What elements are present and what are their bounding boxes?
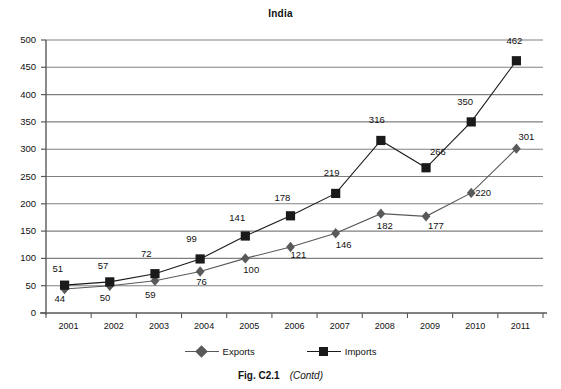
chart-legend: Exports Imports: [0, 345, 561, 357]
data-point-label: 121: [291, 249, 307, 260]
data-point-label: 99: [186, 233, 197, 244]
y-axis-tick-label: 500: [6, 34, 36, 45]
data-point-label: 301: [518, 131, 534, 142]
x-axis-tick-label: 2007: [319, 321, 361, 331]
legend-label-exports: Exports: [223, 346, 255, 357]
x-axis-tick-label: 2005: [228, 321, 270, 331]
figure-number: Fig. C2.1: [238, 370, 280, 381]
data-point-label: 316: [369, 114, 385, 125]
y-axis-tick-label: 50: [6, 280, 36, 291]
data-point-label: 100: [243, 264, 259, 275]
y-axis-tick-label: 350: [6, 116, 36, 127]
data-point-label: 462: [506, 35, 522, 46]
x-axis-tick-label: 2008: [364, 321, 406, 331]
figure-container: India 0501001502002503003504004505002001…: [0, 0, 561, 389]
y-axis-tick-label: 450: [6, 61, 36, 72]
y-axis-tick-label: 250: [6, 171, 36, 182]
y-axis-tick-label: 0: [6, 307, 36, 318]
x-axis-tick-label: 2003: [138, 321, 180, 331]
x-axis-tick-label: 2011: [499, 321, 541, 331]
figure-contd-note: (Contd): [290, 370, 323, 381]
data-point-label: 178: [275, 192, 291, 203]
data-point-label: 59: [145, 289, 156, 300]
diamond-marker-icon: [185, 345, 219, 357]
figure-caption: Fig. C2.1(Contd): [0, 370, 561, 381]
x-axis-tick-label: 2004: [183, 321, 225, 331]
y-axis-tick-label: 400: [6, 89, 36, 100]
data-point-label: 266: [430, 146, 446, 157]
x-axis-tick-label: 2006: [274, 321, 316, 331]
x-axis-tick-label: 2010: [454, 321, 496, 331]
data-point-label: 182: [377, 220, 393, 231]
data-point-label: 44: [55, 293, 66, 304]
y-axis-tick-label: 300: [6, 143, 36, 154]
y-axis-tick-label: 100: [6, 252, 36, 263]
legend-item-imports[interactable]: Imports: [307, 345, 377, 357]
legend-item-exports[interactable]: Exports: [185, 345, 255, 357]
data-point-label: 76: [196, 276, 207, 287]
legend-label-imports: Imports: [345, 346, 377, 357]
data-point-label: 141: [229, 212, 245, 223]
x-axis-tick-label: 2001: [48, 321, 90, 331]
y-axis-tick-label: 200: [6, 198, 36, 209]
data-point-label: 57: [98, 260, 109, 271]
data-point-label: 220: [475, 187, 491, 198]
x-axis-tick-label: 2009: [409, 321, 451, 331]
data-point-label: 50: [100, 292, 111, 303]
data-point-label: 219: [324, 167, 340, 178]
x-axis-tick-label: 2002: [93, 321, 135, 331]
square-marker-icon: [307, 345, 341, 357]
data-point-label: 146: [336, 239, 352, 250]
y-axis-tick-label: 150: [6, 225, 36, 236]
data-point-label: 350: [457, 96, 473, 107]
data-point-label: 177: [428, 220, 444, 231]
data-point-label: 51: [53, 263, 64, 274]
data-point-label: 72: [141, 248, 152, 259]
